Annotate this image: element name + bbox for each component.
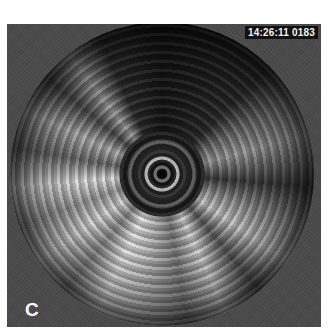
panel-label: C <box>25 299 39 321</box>
ultrasound-field <box>10 24 314 326</box>
timestamp-overlay: 14:26:11 0183 <box>245 26 318 39</box>
ultrasound-frame: 14:26:11 0183 C <box>7 24 321 327</box>
